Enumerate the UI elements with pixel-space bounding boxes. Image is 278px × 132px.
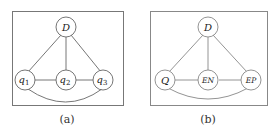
node-q-label: Q (161, 75, 169, 86)
panel-b: D Q EN EP (151, 12, 268, 106)
edge-d-q3 (71, 35, 101, 72)
node-ep-label: EP (245, 76, 257, 85)
diagram-canvas: D q1 q2 q3 D Q EN EP (0, 0, 278, 132)
caption-a: (a) (47, 113, 87, 126)
node-en-label: EN (201, 76, 214, 85)
edge-d-q (169, 35, 203, 72)
edge-q1-q3 (28, 89, 102, 102)
node-d-label: D (203, 22, 212, 33)
edge-d-q1 (28, 35, 61, 72)
panel-a: D q1 q2 q3 (13, 12, 124, 106)
node-d-label: D (61, 22, 70, 33)
caption-b: (b) (188, 113, 228, 126)
edge-d-ep (213, 35, 247, 72)
